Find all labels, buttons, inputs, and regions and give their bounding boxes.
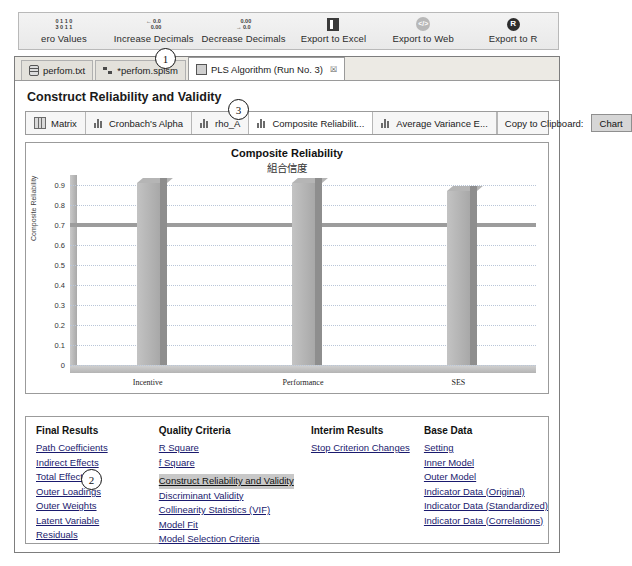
- page-title: Construct Reliability and Validity: [15, 81, 559, 111]
- result-link[interactable]: Inner Model: [424, 456, 548, 471]
- zero-values-icon: 0 1 1 0 3 0 1 1: [56, 15, 73, 33]
- result-link[interactable]: Discriminant Validity: [159, 489, 311, 504]
- result-link[interactable]: Model Fit: [159, 518, 311, 533]
- result-link[interactable]: f Square: [159, 456, 311, 471]
- result-type-toolbar: Matrix Cronbach's Alpha rho_A Composite …: [25, 111, 549, 135]
- y-axis-tick-label: 0.6: [55, 241, 65, 250]
- result-link[interactable]: Latent Variable: [36, 514, 159, 529]
- x-axis-tick-label: Performance: [283, 378, 324, 387]
- chart-plot-area: 00.10.20.30.40.50.60.70.80.9 IncentivePe…: [70, 175, 536, 365]
- link-column-heading: Interim Results: [311, 425, 424, 436]
- y-axis-tick-label: 0.3: [55, 301, 65, 310]
- ribbon-item-zero-values[interactable]: 0 1 1 0 3 0 1 1 ero Values: [19, 13, 109, 49]
- tab-pls-algorithm[interactable]: PLS Algorithm (Run No. 3) ☒: [188, 57, 345, 80]
- result-link[interactable]: Indirect Effects: [36, 456, 159, 471]
- result-link[interactable]: Indicator Data (Standardized): [424, 499, 548, 514]
- bar-side-face: [160, 178, 167, 365]
- bar-side-face: [315, 178, 322, 365]
- result-link[interactable]: R Square: [159, 441, 311, 456]
- result-link[interactable]: Indicator Data (Correlations): [424, 514, 548, 529]
- export-to-web-icon: </>: [416, 17, 430, 31]
- ribbon-item-export-to-excel[interactable]: Export to Excel: [288, 13, 378, 49]
- increase-decimals-icon: ← 0.0 0.00: [146, 15, 161, 33]
- y-axis-tick-label: 0.7: [55, 221, 65, 230]
- ribbon-item-label: Decrease Decimals: [202, 33, 286, 44]
- ribbon-item-decrease-decimals[interactable]: 0.00 → 0.0 Decrease Decimals: [199, 13, 289, 49]
- chart-bar[interactable]: [137, 183, 160, 365]
- database-icon: [29, 65, 39, 76]
- ribbon-item-label: Export to R: [489, 33, 538, 44]
- link-column-interim-results: Interim Results Stop Criterion Changes: [311, 425, 424, 543]
- result-tab-label: Cronbach's Alpha: [109, 118, 183, 129]
- y-axis-tick-label: 0.2: [55, 320, 65, 329]
- ribbon-item-label: Increase Decimals: [114, 33, 194, 44]
- ribbon-item-label: Export to Web: [393, 33, 454, 44]
- y-axis-tick-label: 0.1: [55, 341, 65, 350]
- y-axis-tick-label: 0: [61, 361, 65, 370]
- export-to-r-icon: R: [507, 18, 520, 31]
- annotation-callout-1: 1: [155, 48, 176, 69]
- document-tab-strip: perfom.txt *perfom.splsm PLS Algorithm (…: [15, 57, 559, 81]
- grid-line: [70, 365, 536, 366]
- results-link-panel: Final Results Path CoefficientsIndirect …: [25, 416, 549, 544]
- chart-title: Composite Reliability: [26, 147, 548, 159]
- result-tab-cronbachs-alpha[interactable]: Cronbach's Alpha: [86, 112, 192, 134]
- x-axis: [70, 365, 536, 373]
- bar-chart-icon: [257, 118, 267, 128]
- bar-chart-icon: [94, 118, 104, 128]
- x-axis-tick-label: SES: [451, 378, 465, 387]
- annotation-callout-3: 3: [228, 99, 249, 120]
- link-column-heading: Base Data: [424, 425, 548, 436]
- link-column-quality-criteria: Quality Criteria R Squaref SquareConstru…: [159, 425, 311, 543]
- result-link[interactable]: Model Selection Criteria: [159, 532, 311, 547]
- result-link[interactable]: Outer Weights: [36, 499, 159, 514]
- result-link[interactable]: Construct Reliability and Validity: [159, 474, 294, 489]
- y-axis-tick-label: 0.9: [55, 181, 65, 190]
- result-link[interactable]: Outer Model: [424, 470, 548, 485]
- matrix-icon: [34, 117, 46, 129]
- y-axis-ticks: 00.10.20.30.40.50.60.70.80.9: [26, 175, 70, 365]
- link-column-base-data: Base Data SettingInner ModelOuter ModelI…: [424, 425, 548, 543]
- close-icon[interactable]: ☒: [330, 65, 337, 74]
- bar-top-face: [447, 186, 483, 191]
- y-axis-tick-label: 0.8: [55, 201, 65, 210]
- result-link[interactable]: Indicator Data (Original): [424, 485, 548, 500]
- ribbon-item-label: ero Values: [41, 33, 87, 44]
- chart-subtitle: 組合信度: [26, 160, 548, 175]
- y-axis: [70, 175, 77, 365]
- ribbon-item-export-to-web[interactable]: </> Export to Web: [378, 13, 468, 49]
- bar-top-face: [137, 178, 173, 183]
- chart-bar[interactable]: [447, 191, 470, 365]
- bar-side-face: [470, 186, 477, 365]
- copy-to-clipboard-label: Copy to Clipboard:: [498, 112, 591, 134]
- result-tab-label: Average Variance E...: [396, 118, 488, 129]
- result-tab-composite-reliability[interactable]: Composite Reliabilit...: [249, 112, 373, 134]
- tab-label: perfom.txt: [43, 65, 85, 76]
- result-tab-label: Composite Reliabilit...: [272, 118, 364, 129]
- result-link[interactable]: Path Coefficients: [36, 441, 159, 456]
- result-link[interactable]: Setting: [424, 441, 548, 456]
- ribbon-item-increase-decimals[interactable]: ← 0.0 0.00 Increase Decimals: [109, 13, 199, 49]
- result-link[interactable]: Residuals: [36, 528, 159, 543]
- chart-panel: Composite Reliability 組合信度 Composite Rel…: [25, 142, 549, 394]
- ribbon-item-export-to-r[interactable]: R Export to R: [468, 13, 558, 49]
- export-to-excel-icon: [327, 18, 339, 31]
- result-tab-matrix[interactable]: Matrix: [26, 112, 86, 134]
- copy-chart-button[interactable]: Chart: [591, 114, 632, 132]
- x-axis-tick-label: Incentive: [133, 378, 163, 387]
- annotation-callout-2: 2: [81, 469, 102, 490]
- result-link[interactable]: Stop Criterion Changes: [311, 441, 424, 456]
- tab-label: PLS Algorithm (Run No. 3): [211, 64, 323, 75]
- grid-icon: [196, 64, 207, 75]
- ribbon-toolbar: 0 1 1 0 3 0 1 1 ero Values ← 0.0 0.00 In…: [18, 12, 559, 50]
- result-link[interactable]: Collinearity Statistics (VIF): [159, 503, 311, 518]
- link-column-heading: Quality Criteria: [159, 425, 311, 436]
- result-tab-average-variance-extracted[interactable]: Average Variance E...: [373, 112, 497, 134]
- bar-chart-icon: [200, 118, 210, 128]
- decrease-decimals-icon: 0.00 → 0.0: [236, 15, 251, 33]
- chart-bar[interactable]: [292, 183, 315, 365]
- link-column-heading: Final Results: [36, 425, 159, 436]
- y-axis-tick-label: 0.4: [55, 281, 65, 290]
- result-tab-label: Matrix: [51, 118, 77, 129]
- tab-perfom-txt[interactable]: perfom.txt: [21, 60, 93, 80]
